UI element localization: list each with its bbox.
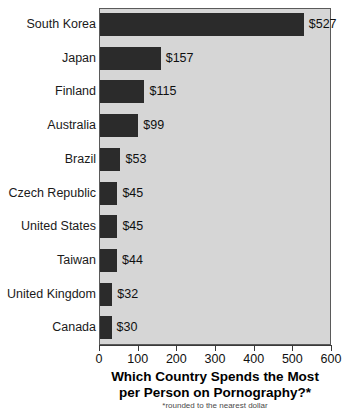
x-tick [254, 345, 255, 351]
x-tick-label: 0 [96, 352, 103, 366]
bar-value-label: $115 [149, 75, 176, 108]
category-label: Brazil [65, 143, 96, 176]
chart-title-line-1: Which Country Spends the Most [99, 369, 331, 385]
bar-value-label: $45 [122, 177, 143, 210]
x-tick-label: 400 [243, 352, 264, 366]
bar-value-label: $45 [122, 210, 143, 243]
bar-row: South Korea$527 [0, 8, 346, 41]
category-label: Finland [55, 75, 96, 108]
bar [100, 114, 138, 137]
category-label: Japan [62, 42, 96, 75]
bar-row: Japan$157 [0, 42, 346, 75]
bar-wrap: $99 [100, 109, 346, 142]
bar-value-label: $99 [143, 109, 164, 142]
x-tick-label: 300 [205, 352, 226, 366]
bar-wrap: $45 [100, 210, 346, 243]
bar-row: Canada$30 [0, 311, 346, 344]
bar [100, 148, 120, 171]
category-label: Canada [52, 311, 96, 344]
x-tick [331, 345, 332, 351]
bar [100, 215, 117, 238]
bar-chart: South Korea$527Japan$157Finland$115Austr… [0, 0, 346, 415]
x-tick [99, 345, 100, 351]
bar-wrap: $527 [100, 8, 346, 41]
bar-value-label: $32 [117, 278, 138, 311]
bar-value-label: $53 [125, 143, 146, 176]
bar-row: Finland$115 [0, 75, 346, 108]
chart-title: Which Country Spends the Most per Person… [99, 369, 331, 400]
bar-wrap: $157 [100, 42, 346, 75]
bar-value-label: $30 [117, 311, 138, 344]
bar-row: United States$45 [0, 210, 346, 243]
bar-row: United Kingdom$32 [0, 278, 346, 311]
x-tick [292, 345, 293, 351]
bar-wrap: $44 [100, 244, 346, 277]
bar [100, 182, 117, 205]
bar-wrap: $45 [100, 177, 346, 210]
bar-row: Taiwan$44 [0, 244, 346, 277]
bar-value-label: $44 [122, 244, 143, 277]
bar-row: Australia$99 [0, 109, 346, 142]
x-tick-label: 200 [166, 352, 187, 366]
bar [100, 316, 112, 339]
category-label: United States [21, 210, 96, 243]
bar-wrap: $53 [100, 143, 346, 176]
bar [100, 80, 144, 103]
bar-row: Brazil$53 [0, 143, 346, 176]
bar-value-label: $527 [309, 8, 337, 41]
chart-title-line-2: per Person on Pornography?* [99, 385, 331, 401]
category-label: Australia [47, 109, 96, 142]
x-tick [138, 345, 139, 351]
x-tick-label: 500 [282, 352, 303, 366]
category-label: Taiwan [57, 244, 96, 277]
category-label: United Kingdom [7, 278, 96, 311]
x-tick [176, 345, 177, 351]
x-tick-label: 100 [127, 352, 148, 366]
bar [100, 249, 117, 272]
bar-wrap: $115 [100, 75, 346, 108]
chart-footnote: *rounded to the nearest dollar [99, 401, 331, 411]
x-tick-label: 600 [321, 352, 342, 366]
bar-wrap: $32 [100, 278, 346, 311]
bar-wrap: $30 [100, 311, 346, 344]
bar [100, 47, 161, 70]
bar-value-label: $157 [166, 42, 194, 75]
category-label: Czech Republic [8, 177, 96, 210]
bar [100, 283, 112, 306]
bar-row: Czech Republic$45 [0, 177, 346, 210]
x-tick [215, 345, 216, 351]
bar [100, 13, 304, 36]
category-label: South Korea [27, 8, 97, 41]
